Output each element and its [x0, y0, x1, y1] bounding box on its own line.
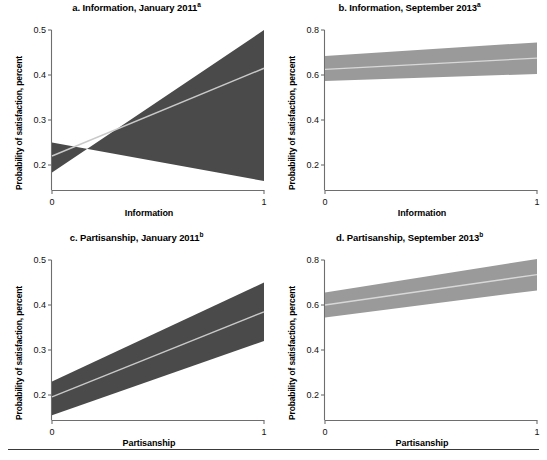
panel-b-ytick-0.4: 0.4 — [306, 115, 319, 125]
panel-a-xtick-0: 0 — [49, 197, 54, 207]
panel-c-xtick-0: 0 — [49, 427, 54, 437]
figure-four-panel-chart: a. Information, January 2011a Probabilit… — [0, 0, 547, 460]
panel-c-fit-line — [52, 312, 264, 397]
panel-b-confidence-band — [325, 42, 537, 81]
panel-c-ytick-0.5: 0.5 — [33, 255, 46, 265]
panel-c-confidence-band — [52, 283, 264, 416]
panel-d-confidence-band — [325, 259, 537, 318]
panel-a: a. Information, January 2011a Probabilit… — [0, 0, 273, 230]
panel-b-x-axis-label: Information — [303, 208, 541, 218]
panel-c-plot: 0.5 0.4 0.3 0.2 0 1 — [0, 230, 273, 460]
panel-d-ytick-0.2: 0.2 — [306, 390, 319, 400]
panel-d-ytick-0.8: 0.8 — [306, 255, 319, 265]
panel-a-confidence-band — [52, 30, 264, 181]
panel-c-ytick-0.2: 0.2 — [33, 390, 46, 400]
panel-d-xtick-0: 0 — [322, 427, 327, 437]
panel-c-ytick-0.3: 0.3 — [33, 345, 46, 355]
panel-c-ytick-0.4: 0.4 — [33, 300, 46, 310]
panel-a-xtick-1: 1 — [261, 197, 266, 207]
panel-d-plot: 0.8 0.6 0.4 0.2 0 1 — [273, 230, 546, 460]
panel-d-xtick-1: 1 — [534, 427, 539, 437]
figure-bottom-rule — [8, 449, 539, 450]
panel-a-ytick-0.4: 0.4 — [33, 70, 46, 80]
panel-d: d. Partisanship, September 2013b Probabi… — [273, 230, 546, 460]
panel-b-xtick-0: 0 — [322, 197, 327, 207]
panel-b-plot: 0.8 0.6 0.4 0.2 0 1 — [273, 0, 546, 230]
panel-b-ytick-0.2: 0.2 — [306, 160, 319, 170]
panel-c-xtick-1: 1 — [261, 427, 266, 437]
panel-c: c. Partisanship, January 2011b Probabili… — [0, 230, 273, 460]
panel-b-xtick-1: 1 — [534, 197, 539, 207]
panel-a-ytick-0.5: 0.5 — [33, 25, 46, 35]
panel-c-x-axis-label: Partisanship — [30, 438, 268, 448]
panel-b-ytick-0.6: 0.6 — [306, 70, 319, 80]
panel-b: b. Information, September 2013a Probabil… — [273, 0, 546, 230]
panel-d-x-axis-label: Partisanship — [303, 438, 541, 448]
panel-a-x-axis-label: Information — [30, 208, 268, 218]
panel-a-plot: 0.5 0.4 0.3 0.2 0 1 — [0, 0, 273, 230]
panel-d-ytick-0.6: 0.6 — [306, 300, 319, 310]
panel-a-ytick-0.3: 0.3 — [33, 115, 46, 125]
panel-a-ytick-0.2: 0.2 — [33, 160, 46, 170]
panel-b-ytick-0.8: 0.8 — [306, 25, 319, 35]
panel-d-ytick-0.4: 0.4 — [306, 345, 319, 355]
